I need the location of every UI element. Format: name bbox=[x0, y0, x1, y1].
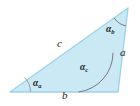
angle-label-alpha-c: αc bbox=[80, 63, 88, 73]
triangle-graphic bbox=[0, 0, 140, 106]
angle-subscript-c: c bbox=[85, 66, 88, 73]
side-label-c: c bbox=[57, 38, 62, 49]
side-label-a: a bbox=[120, 47, 126, 58]
side-label-b: b bbox=[62, 90, 68, 101]
angle-subscript-b: b bbox=[111, 28, 114, 35]
angle-label-alpha-b: αb bbox=[106, 25, 115, 35]
triangle-diagram: c a b αa αb αc bbox=[0, 0, 140, 106]
angle-subscript-a: a bbox=[38, 82, 41, 89]
triangle-shape bbox=[10, 8, 128, 92]
angle-label-alpha-a: αa bbox=[33, 79, 42, 89]
